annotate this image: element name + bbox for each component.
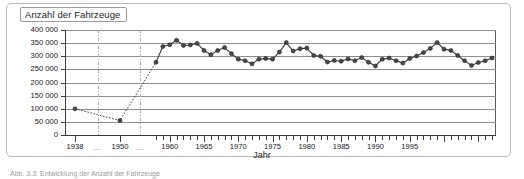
data-point-marker [360,56,364,60]
data-point-marker [161,45,165,49]
data-point-marker [223,46,227,50]
data-point-marker [367,60,371,64]
data-point-marker [353,59,357,63]
data-point-marker [394,59,398,63]
data-point-marker [257,57,261,61]
data-point-marker [435,41,439,45]
data-point-marker [243,59,247,63]
data-point-marker [346,57,350,61]
data-point-marker [469,63,473,67]
data-point-marker [490,56,494,60]
data-point-marker [463,59,467,63]
data-point-marker [442,47,446,51]
chart-title-label: Anzahl der Fahrzeuge [25,9,120,20]
series-line-dotted [75,62,156,120]
data-point-marker [154,60,158,64]
data-point-marker [168,43,172,47]
data-point-marker [73,107,77,111]
data-point-marker [291,49,295,53]
data-point-marker [312,53,316,57]
series-line [156,40,492,66]
data-point-marker [118,119,122,123]
data-series-layer [0,0,524,179]
data-point-marker [277,50,281,54]
data-point-marker [387,56,391,60]
figure-container: Anzahl der Fahrzeuge 050 000100 000150 0… [0,0,524,179]
data-point-marker [202,48,206,52]
data-point-marker [271,57,275,61]
data-point-marker [319,54,323,58]
data-point-marker [236,57,240,61]
data-point-marker [332,58,336,62]
data-point-marker [325,60,329,64]
data-point-marker [421,51,425,55]
data-point-marker [339,59,343,63]
data-point-marker [483,59,487,63]
data-point-marker [284,41,288,45]
data-point-marker [195,41,199,45]
data-point-marker [305,46,309,50]
data-point-marker [209,53,213,57]
data-point-marker [408,57,412,61]
figure-caption: Abb. 3.3: Entwicklung der Anzahl der Fah… [10,170,510,179]
data-point-marker [428,46,432,50]
data-point-marker [181,43,185,47]
data-point-marker [264,57,268,61]
data-point-marker [373,64,377,68]
data-point-marker [188,43,192,47]
data-point-marker [476,61,480,65]
data-point-marker [449,48,453,52]
data-point-marker [216,48,220,52]
data-point-marker [175,38,179,42]
data-point-marker [298,47,302,51]
data-point-marker [380,57,384,61]
chart-title-box: Anzahl der Fahrzeuge [20,7,127,22]
data-point-marker [250,62,254,66]
data-point-marker [456,53,460,57]
data-point-marker [401,61,405,65]
data-point-marker [415,54,419,58]
data-point-marker [229,52,233,56]
